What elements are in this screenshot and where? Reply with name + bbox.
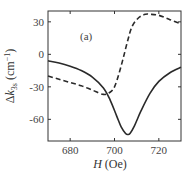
x-tick-label: 720 [151, 144, 168, 156]
y-tick-label: 30 [33, 16, 45, 28]
y-tick-label: 0 [39, 48, 45, 60]
axis-ticks: 680700720300-30-60 [29, 11, 181, 156]
x-tick-label: 700 [106, 144, 123, 156]
x-tick-label: 680 [62, 144, 79, 156]
panel-label: (a) [80, 30, 93, 43]
y-tick-label: -60 [29, 113, 44, 125]
y-axis-label: Δk3s (cm−1) [3, 49, 19, 103]
plot-frame [48, 11, 181, 141]
y-tick-label: -30 [29, 81, 44, 93]
x-axis-label: H (Oe) [92, 157, 127, 171]
series-solid-line [48, 61, 181, 135]
line-chart: 680700720300-30-60 (a) H (Oe) Δk3s (cm−1… [0, 0, 194, 184]
plot-lines [48, 14, 181, 135]
series-dashed-line [48, 14, 181, 95]
